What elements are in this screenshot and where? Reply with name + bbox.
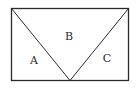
- region-label-a: A: [29, 54, 39, 67]
- right-diagonal-line: [70, 9, 129, 81]
- region-label-c: C: [103, 52, 111, 65]
- outer-rectangle: [12, 9, 129, 81]
- region-label-b: B: [65, 30, 73, 43]
- geometry-diagram: A B C: [0, 0, 137, 92]
- left-diagonal-line: [12, 9, 71, 81]
